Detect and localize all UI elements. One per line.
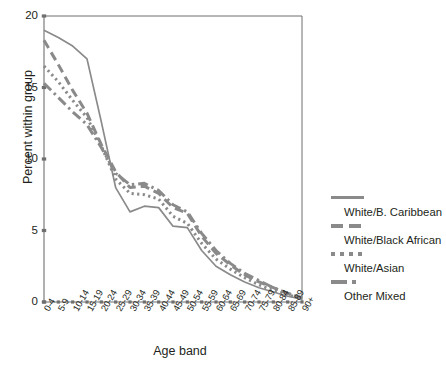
y-tick-label: 0 xyxy=(12,295,38,307)
chart-plot-area xyxy=(0,0,446,370)
y-axis-title: Percent within group xyxy=(21,37,35,217)
chart-figure: Percent within group Age band 05101520 0… xyxy=(0,0,446,370)
y-tick-label: 5 xyxy=(12,224,38,236)
legend-swatch-solid xyxy=(331,196,364,199)
y-axis-tick xyxy=(42,229,46,232)
y-axis-tick xyxy=(42,157,46,160)
legend-label: Other Mixed xyxy=(344,290,406,302)
legend-swatch-dashed xyxy=(331,224,364,228)
y-tick-label: 10 xyxy=(12,152,38,164)
series-line-dashdot xyxy=(44,83,302,298)
legend-label: White/Asian xyxy=(344,262,404,274)
legend-label: White/Black African xyxy=(344,234,441,246)
y-tick-label: 20 xyxy=(12,9,38,21)
series-line-dotted xyxy=(44,66,302,298)
x-axis-title: Age band xyxy=(120,344,240,358)
y-tick-label: 15 xyxy=(12,81,38,93)
legend-swatch-dashdot xyxy=(331,280,364,284)
legend-label: White/B. Caribbean xyxy=(344,206,442,218)
y-axis-tick xyxy=(42,14,46,17)
series-line-dashed xyxy=(44,40,302,297)
legend-swatch-dotted xyxy=(331,252,364,256)
series-line-solid xyxy=(44,30,302,299)
